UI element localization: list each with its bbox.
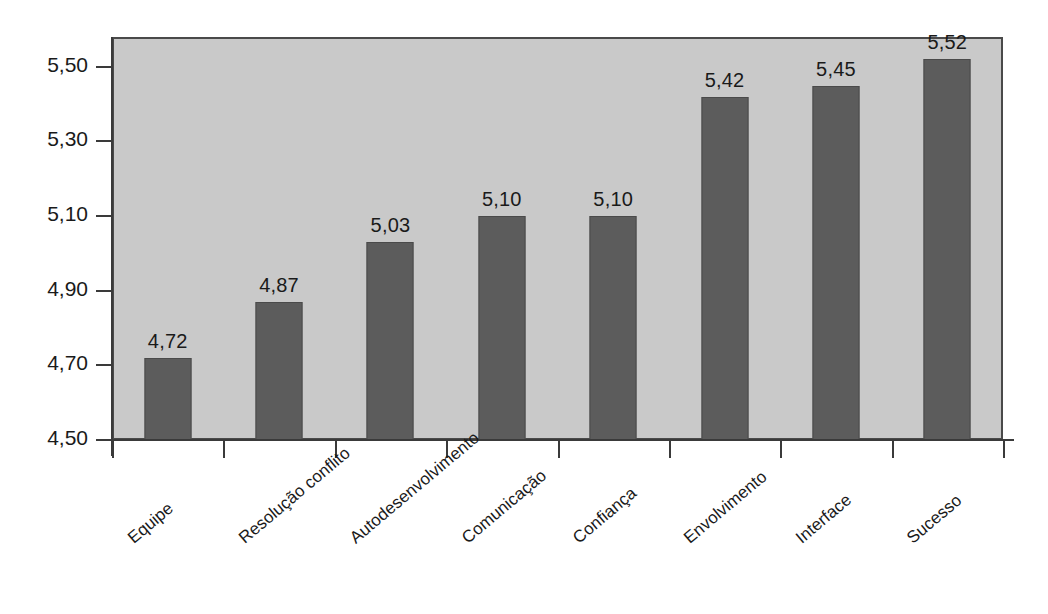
x-axis-category-label: Envolvimento [681, 467, 772, 548]
y-axis-tick-label: 5,30 [18, 127, 88, 151]
bar-chart-figure: 4,724,875,035,105,105,425,455,52 4,504,7… [0, 0, 1048, 614]
y-axis-tick-mark [96, 364, 112, 366]
plot-area [112, 37, 1003, 440]
x-axis-tick-mark [112, 440, 114, 458]
y-axis-tick-mark [96, 290, 112, 292]
y-axis-tick-mark [96, 66, 112, 68]
x-axis-category-label: Comunicação [458, 466, 550, 548]
x-axis-line [96, 439, 1014, 441]
x-axis-tick-mark [892, 440, 894, 458]
x-axis-category-label: Equipe [124, 499, 177, 548]
y-axis-tick-label: 4,70 [18, 351, 88, 375]
y-axis-line [111, 37, 113, 456]
x-axis-category-label: Interface [792, 490, 856, 548]
x-axis-tick-mark [669, 440, 671, 458]
x-axis-category-label: Confiança [569, 483, 641, 548]
x-axis-tick-mark [223, 440, 225, 458]
y-axis-tick-mark [96, 215, 112, 217]
x-axis-tick-mark [1003, 440, 1005, 458]
y-axis-tick-label: 4,90 [18, 277, 88, 301]
x-axis-category-label: Sucesso [903, 491, 966, 548]
y-axis-tick-label: 5,50 [18, 53, 88, 77]
x-axis-category-label: Resolução conflito [235, 443, 354, 548]
y-axis-tick-label: 4,50 [18, 426, 88, 450]
x-axis-tick-mark [780, 440, 782, 458]
y-axis-tick-label: 5,10 [18, 202, 88, 226]
x-axis-tick-mark [558, 440, 560, 458]
y-axis-tick-mark [96, 140, 112, 142]
